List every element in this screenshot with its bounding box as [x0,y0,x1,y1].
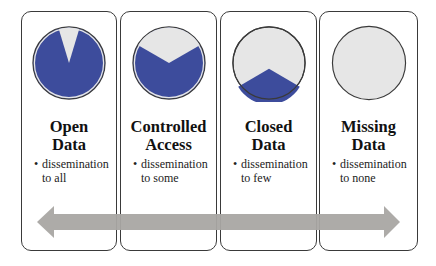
card-open-data: Open Data •dissemination to all [21,11,117,251]
card-missing-data: Missing Data •dissemination to none [319,11,418,251]
title-closed-data: Closed Data [221,118,316,154]
bullet-closed-data: •dissemination to few [233,157,312,185]
bullet-missing-data: •dissemination to none [332,157,413,185]
pie-closed-data-icon [230,24,308,102]
bullet-controlled-access: •dissemination to some [133,157,212,185]
pie-missing-data-icon [330,24,408,102]
title-missing-data: Missing Data [320,118,417,154]
card-controlled-access: Controlled Access •dissemination to some [120,11,217,251]
card-closed-data: Closed Data •dissemination to few [220,11,317,251]
title-open-data: Open Data [22,118,116,154]
bullet-open-data: •dissemination to all [34,157,112,185]
pie-controlled-access-icon [130,24,208,102]
pie-open-data-icon [30,24,108,102]
title-controlled-access: Controlled Access [121,118,216,154]
